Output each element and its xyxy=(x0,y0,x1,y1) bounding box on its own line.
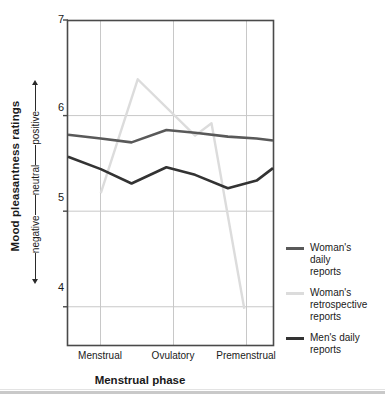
legend-item-2[interactable]: Men's dailyreports xyxy=(286,332,385,356)
legend: Woman'sdailyreportsWoman'sretrospectiver… xyxy=(286,242,385,365)
x-tick-menstrual: Menstrual xyxy=(78,350,122,361)
x-axis-title: Menstrual phase xyxy=(0,374,280,386)
legend-label: Woman'sretrospectivereports xyxy=(310,287,367,323)
figure-container: Mood pleasantness ratings negative neutr… xyxy=(0,0,385,399)
legend-label-line: retrospective xyxy=(310,299,367,311)
legend-swatch-icon xyxy=(286,337,304,340)
x-tick-ovulatory: Ovulatory xyxy=(152,350,195,361)
series-layer xyxy=(68,79,273,308)
legend-label-line: reports xyxy=(310,311,367,323)
legend-swatch-icon xyxy=(286,292,304,295)
series-line-men-s-daily-reports xyxy=(68,157,273,189)
legend-label: Men's dailyreports xyxy=(310,332,360,356)
legend-label-line: Woman's xyxy=(310,287,367,299)
legend-item-1[interactable]: Woman'sretrospectivereports xyxy=(286,287,385,323)
legend-label-line: Men's daily xyxy=(310,332,360,344)
legend-label-line: Woman's xyxy=(310,242,351,254)
series-line-woman-s-daily-reports xyxy=(68,130,273,142)
legend-label: Woman'sdailyreports xyxy=(310,242,351,278)
legend-item-0[interactable]: Woman'sdailyreports xyxy=(286,242,385,278)
legend-label-line: daily xyxy=(310,254,351,266)
series-line-woman-s-retrospective-reports xyxy=(101,79,245,308)
legend-swatch-icon xyxy=(286,247,304,250)
legend-label-line: reports xyxy=(310,266,351,278)
x-tick-premenstrual: Premenstrual xyxy=(216,350,275,361)
legend-label-line: reports xyxy=(310,344,360,356)
footer-rule xyxy=(0,391,385,394)
footer-rule-light xyxy=(0,389,385,390)
